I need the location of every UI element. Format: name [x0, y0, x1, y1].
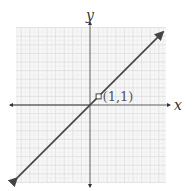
point-label: (1,1)	[103, 89, 134, 104]
point-marker-1-1	[96, 94, 101, 99]
y-axis-label: y	[85, 7, 95, 23]
coordinate-plane: (1,1) x y	[0, 0, 192, 191]
x-axis-label: x	[174, 97, 182, 113]
